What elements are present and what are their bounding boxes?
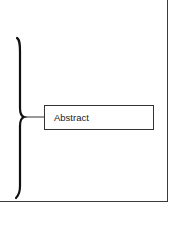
curly-brace-icon [16,38,24,198]
abstract-label: Abstract [54,112,89,123]
abstract-box: Abstract [44,105,154,130]
